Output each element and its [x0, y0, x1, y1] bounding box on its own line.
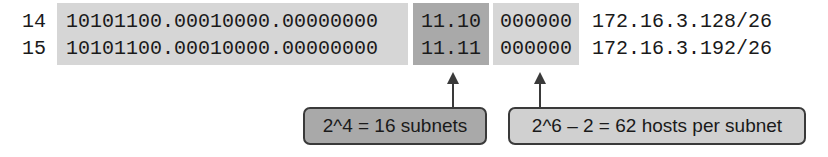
subnets-callout: 2^4 = 16 subnets	[303, 107, 487, 145]
row-number: 15	[22, 35, 56, 62]
subnet-address: 172.16.3.128/26	[592, 8, 772, 35]
arrow-shaft	[539, 82, 541, 108]
subnet-bits: 11.11	[421, 35, 481, 62]
host-bits: 000000	[500, 35, 572, 62]
hosts-callout: 2^6 – 2 = 62 hosts per subnet	[508, 107, 806, 145]
host-bits: 000000	[500, 8, 572, 35]
network-bits: 10101100.00010000.00000000	[66, 35, 378, 62]
subnet-bits: 11.10	[421, 8, 481, 35]
subnet-address: 172.16.3.192/26	[592, 35, 772, 62]
network-bits: 10101100.00010000.00000000	[66, 8, 378, 35]
arrow-shaft	[452, 82, 454, 108]
row-number: 14	[22, 8, 56, 35]
